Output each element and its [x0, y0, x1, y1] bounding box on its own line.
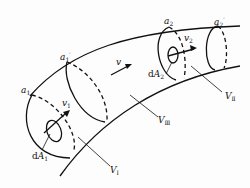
arrowhead-v — [125, 64, 132, 69]
velocity-v2-line — [168, 49, 194, 56]
velocity-v-line — [111, 66, 128, 75]
label-VI: VⅠ — [110, 166, 119, 176]
label-VIII: VⅢ — [158, 116, 170, 126]
leader-VI — [78, 137, 110, 166]
arrowhead-v2 — [190, 45, 197, 51]
section-a2p-back — [218, 26, 226, 68]
leader-dA2 — [166, 62, 172, 74]
label-a1: a1 — [21, 86, 30, 96]
arrowhead-v1 — [63, 110, 70, 117]
label-v2: v2 — [184, 34, 193, 44]
label-a2-prime: a2′ — [214, 17, 225, 28]
label-dA2: dA2 — [148, 70, 164, 80]
flow-tube-diagram: a1 a1′ a2 a2′ v v1 v2 dA1 dA2 VⅠ VⅡ VⅢ — [0, 0, 250, 188]
label-a1-prime: a1′ — [60, 52, 71, 63]
label-a2: a2 — [164, 17, 173, 27]
leader-VII — [191, 66, 222, 92]
section-a1p-back — [67, 62, 107, 120]
tube-lower-wall — [60, 66, 240, 176]
label-VII: VⅡ — [225, 92, 236, 102]
section-a2p-front — [206, 26, 218, 70]
label-dA1: dA1 — [32, 152, 48, 162]
label-v1: v1 — [62, 99, 71, 109]
leader-dA1 — [42, 134, 50, 150]
label-v: v — [116, 58, 121, 67]
